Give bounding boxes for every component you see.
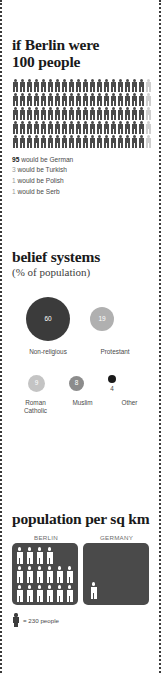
belief-bubble-value: 4 [110, 385, 114, 392]
population-panels [12, 543, 153, 605]
person-icon [61, 79, 68, 92]
person-icon [26, 135, 33, 148]
person-icon [35, 566, 44, 583]
belief-bubble-value: 8 [75, 380, 79, 387]
person-icon [110, 93, 117, 106]
person-icon [138, 107, 145, 120]
person-icon [124, 121, 131, 134]
person-icon [68, 135, 75, 148]
belief-bubble-non-religious: 60 [26, 297, 70, 341]
person-icon [145, 79, 152, 92]
belief-bubble-other: 4 [108, 375, 116, 392]
person-icon [15, 585, 24, 602]
person-icon [96, 121, 103, 134]
belief-label-other: Other [106, 399, 153, 415]
person-icon [96, 135, 103, 148]
person-icon [82, 79, 89, 92]
person-icon [131, 93, 138, 106]
person-icon [117, 79, 124, 92]
section-if-berlin-were-100-people: if Berlin were 100 people 95 would be Ge… [12, 36, 153, 197]
person-icon [35, 547, 44, 564]
person-icon [19, 93, 26, 106]
person-icon [12, 79, 19, 92]
belief-label-non-religious: Non-religious [12, 348, 84, 356]
people-legend-text: would be Serb [16, 188, 60, 195]
person-icon [61, 93, 68, 106]
person-icon [145, 93, 152, 106]
person-icon [75, 79, 82, 92]
person-icon [89, 107, 96, 120]
people-legend-line: 95 would be German [12, 155, 153, 166]
person-icon [33, 107, 40, 120]
person-icon [54, 79, 61, 92]
person-icon [103, 107, 110, 120]
people-legend-text: would be German [19, 156, 73, 163]
person-icon [68, 121, 75, 134]
panel-header-germany: GERMANY [80, 534, 153, 541]
person-icon [110, 79, 117, 92]
population-figure-row [89, 582, 98, 599]
population-figure-row [15, 566, 75, 583]
person-icon [75, 93, 82, 106]
person-icon [15, 566, 24, 583]
population-panel-berlin [12, 543, 78, 605]
belief-bubble-row-primary: 6019 [12, 297, 153, 341]
person-icon [82, 121, 89, 134]
person-icon [89, 79, 96, 92]
person-icon [138, 121, 145, 134]
person-icon [55, 585, 64, 602]
person-icon [35, 585, 44, 602]
person-icon [89, 582, 98, 599]
population-key: = 230 people [12, 613, 153, 627]
person-icon [68, 79, 75, 92]
person-icon [54, 93, 61, 106]
belief-section-title: belief systems [12, 248, 153, 265]
person-icon [19, 121, 26, 134]
person-icon [138, 135, 145, 148]
person-icon [68, 107, 75, 120]
person-icon [75, 121, 82, 134]
person-icon [82, 135, 89, 148]
person-icon [96, 93, 103, 106]
person-icon [40, 79, 47, 92]
person-icon [45, 547, 54, 564]
population-section-title: population per sq km [12, 510, 153, 527]
person-icon [45, 566, 54, 583]
person-icon [47, 93, 54, 106]
person-icon [145, 121, 152, 134]
person-icon [75, 107, 82, 120]
belief-section-subtitle: (% of population) [12, 266, 153, 279]
person-icon [103, 93, 110, 106]
person-icon [103, 135, 110, 148]
person-icon [96, 79, 103, 92]
belief-label-protestant: Protestant [84, 348, 146, 356]
person-icon [19, 107, 26, 120]
people-row [12, 93, 153, 106]
person-icon [54, 107, 61, 120]
person-icon [33, 135, 40, 148]
people-row [12, 107, 153, 120]
person-icon [68, 93, 75, 106]
belief-bubble-value: 19 [98, 316, 105, 323]
people-row [12, 121, 153, 134]
person-icon [33, 79, 40, 92]
person-icon [12, 135, 19, 148]
person-icon [82, 107, 89, 120]
person-icon [26, 121, 33, 134]
person-icon [110, 121, 117, 134]
person-icon [45, 585, 54, 602]
people-row [12, 135, 153, 148]
person-icon [96, 107, 103, 120]
person-icon [89, 135, 96, 148]
person-icon [110, 107, 117, 120]
person-icon [26, 93, 33, 106]
person-icon [54, 135, 61, 148]
person-icon [131, 107, 138, 120]
person-icon [61, 121, 68, 134]
people-title-line1: if Berlin were [12, 36, 99, 53]
person-icon [61, 135, 68, 148]
person-icon [82, 93, 89, 106]
person-icon [61, 107, 68, 120]
person-icon [33, 121, 40, 134]
belief-labels-row-secondary: Roman Catholic Muslim Other [12, 399, 153, 415]
